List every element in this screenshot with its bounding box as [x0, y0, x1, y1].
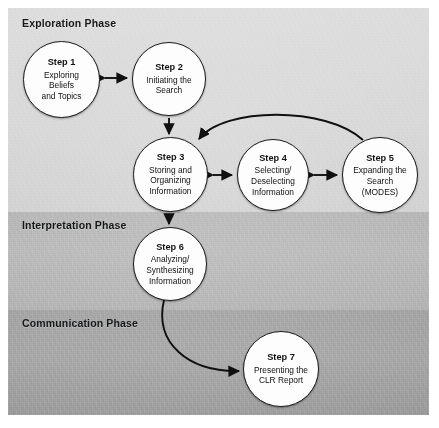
node-step1[interactable]: Step 1 Exploring Beliefs and Topics	[23, 41, 100, 118]
node-step1-line3: and Topics	[42, 91, 82, 102]
node-step5-line2: Search	[367, 176, 394, 187]
node-step6[interactable]: Step 6 Analyzing/ Synthesizing Informati…	[133, 227, 207, 301]
node-step6-line3: Information	[149, 276, 191, 287]
node-step3-title: Step 3	[157, 152, 185, 164]
node-step7-line2: CLR Report	[259, 375, 303, 386]
node-step5-line3: (MODES)	[362, 187, 398, 198]
node-step6-line2: Synthesizing	[146, 265, 194, 276]
edge-step6-step7-curved	[162, 300, 239, 371]
node-step3[interactable]: Step 3 Storing and Organizing Informatio…	[133, 137, 208, 212]
edge-step5-step3-curved	[199, 115, 363, 140]
figure-frame: Exploration Phase Interpretation Phase C…	[8, 8, 429, 415]
node-step2-line2: Search	[156, 85, 183, 96]
node-step7-line1: Presenting the	[254, 365, 308, 376]
node-step1-title: Step 1	[48, 57, 76, 69]
node-step2[interactable]: Step 2 Initiating the Search	[132, 42, 206, 116]
node-step5-line1: Expanding the	[353, 165, 407, 176]
node-step4-line2: Deselecting	[251, 176, 295, 187]
diagram-canvas: Exploration Phase Interpretation Phase C…	[0, 0, 439, 428]
node-step3-line3: Information	[150, 186, 192, 197]
node-step1-line1: Exploring	[44, 70, 79, 81]
node-step2-line1: Initiating the	[146, 75, 191, 86]
node-step4-line3: Information	[252, 187, 294, 198]
node-step2-title: Step 2	[155, 62, 183, 74]
node-step6-line1: Analyzing/	[151, 254, 190, 265]
node-step7-title: Step 7	[267, 352, 295, 364]
node-step4-title: Step 4	[259, 153, 287, 165]
node-step4-line1: Selecting/	[255, 165, 292, 176]
node-step5[interactable]: Step 5 Expanding the Search (MODES)	[342, 137, 418, 213]
node-step6-title: Step 6	[156, 242, 184, 254]
node-step3-line1: Storing and	[149, 165, 192, 176]
node-step4[interactable]: Step 4 Selecting/ Deselecting Informatio…	[237, 139, 309, 211]
node-step7[interactable]: Step 7 Presenting the CLR Report	[243, 331, 319, 407]
node-step1-line2: Beliefs	[49, 80, 74, 91]
node-step5-title: Step 5	[366, 153, 394, 165]
node-step3-line2: Organizing	[150, 175, 191, 186]
